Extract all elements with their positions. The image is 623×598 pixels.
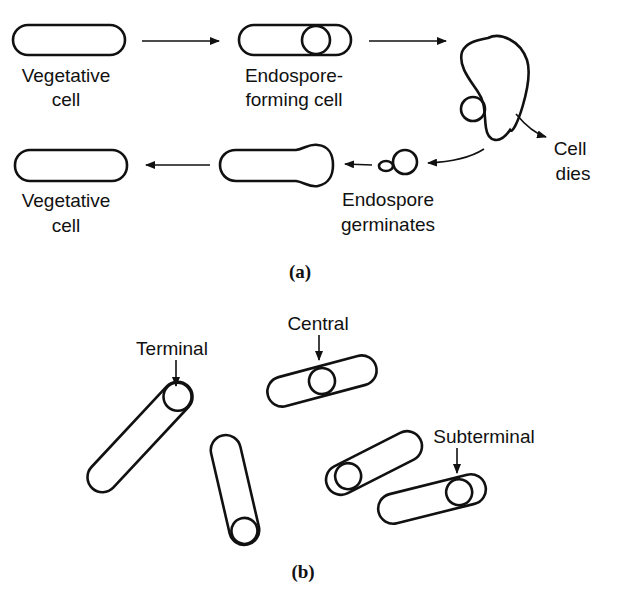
vegetative-cell-shape	[13, 25, 125, 55]
endospore-circle	[302, 26, 330, 54]
label-terminal: Terminal	[136, 338, 208, 359]
free-endospore-circle	[393, 150, 417, 174]
label-vegetative-cell-top-1: Vegetative	[22, 65, 111, 86]
caption-b: (b)	[291, 561, 314, 583]
arrow-icon	[428, 149, 484, 163]
rod-subterminal-spore-2	[375, 471, 489, 527]
germinating-cell-shape	[220, 145, 333, 187]
vegetative-cell-shape	[15, 150, 127, 181]
panel-a: Vegetative cell Endospore- forming cell …	[13, 25, 590, 283]
label-endospore-forming-1: Endospore-	[245, 65, 343, 86]
label-cell: Cell	[554, 138, 587, 159]
rod-central-spore	[264, 352, 380, 410]
endospore-forming-cell-shape	[239, 25, 351, 55]
label-subterminal: Subterminal	[433, 426, 534, 447]
arrow-icon	[345, 164, 372, 165]
label-endospore-germinates-1: Endospore	[342, 189, 434, 210]
label-vegetative-cell-bottom-1: Vegetative	[22, 190, 111, 211]
germ-tube-shape	[379, 161, 393, 171]
label-endospore-germinates-2: germinates	[341, 214, 435, 235]
dying-cell-shape	[461, 36, 528, 140]
endospore-diagram: Vegetative cell Endospore- forming cell …	[0, 0, 623, 598]
label-endospore-forming-2: forming cell	[245, 89, 342, 110]
label-dies: dies	[556, 163, 591, 184]
label-vegetative-cell-top-2: cell	[52, 89, 81, 110]
panel-b: Terminal Central Subterminal	[81, 313, 534, 583]
rod-terminal-spore	[81, 376, 198, 499]
arrow-icon	[516, 114, 546, 137]
released-endospore-circle	[461, 97, 485, 121]
label-vegetative-cell-bottom-2: cell	[52, 215, 81, 236]
caption-a: (a)	[289, 261, 311, 283]
rod-terminal-spore-vertical	[208, 432, 262, 548]
label-central: Central	[287, 313, 348, 334]
